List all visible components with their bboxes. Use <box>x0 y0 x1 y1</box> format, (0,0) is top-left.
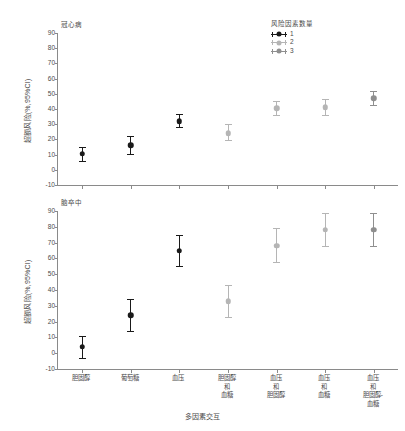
data-point-marker <box>128 143 134 149</box>
legend-label: 3 <box>290 48 294 55</box>
error-bar-cap-upper <box>127 136 134 137</box>
y-tick-mark <box>55 211 58 212</box>
error-bar-cap-lower <box>225 140 232 141</box>
error-bar-cap-upper <box>225 124 232 125</box>
legend-marker-icon <box>271 39 287 46</box>
legend-entries: 123 <box>271 31 313 55</box>
legend-item[interactable]: 2 <box>271 39 313 46</box>
error-bar-cap-lower <box>127 154 134 155</box>
x-category-label: 血压和胆固醇-血糖 <box>363 374 383 408</box>
y-tick-mark <box>55 124 58 125</box>
x-tick-mark <box>179 369 180 373</box>
data-point-marker <box>225 298 231 304</box>
data-point-marker <box>371 96 377 102</box>
figure-root: 冠心病 超额风险(%,95%CI) 9080706050403020100-10… <box>0 0 405 431</box>
y-tick-mark <box>55 227 58 228</box>
error-bar-cap-lower <box>273 115 280 116</box>
panel-title-stroke: 脑卒中 <box>61 200 82 207</box>
plot-area-stroke: 9080706050403020100-10 <box>57 211 398 370</box>
data-point-marker <box>274 105 280 111</box>
error-bar-cap-upper <box>79 147 86 148</box>
x-axis-title: 多因素交互 <box>0 411 405 421</box>
panel-title-chd: 冠心病 <box>61 22 82 29</box>
error-bar-cap-upper <box>225 285 232 286</box>
x-tick-mark <box>228 369 229 373</box>
error-bar-cap-upper <box>273 101 280 102</box>
x-category-label: 胆固醇 <box>72 374 90 383</box>
data-point-marker <box>80 151 86 157</box>
error-bar-point <box>130 211 131 369</box>
error-bar-cap-lower <box>176 127 183 128</box>
data-point-marker <box>177 118 183 124</box>
error-bar-point <box>82 211 83 369</box>
y-tick-mark <box>55 274 58 275</box>
x-category-label: 葡萄糖 <box>121 374 139 383</box>
y-tick-mark <box>55 185 58 186</box>
error-bar-cap-lower <box>79 161 86 162</box>
legend-label: 2 <box>290 39 294 46</box>
y-tick-mark <box>55 243 58 244</box>
y-tick-mark <box>55 369 58 370</box>
error-bar-cap-upper <box>127 299 134 300</box>
x-tick-mark <box>277 185 278 189</box>
y-tick-mark <box>55 353 58 354</box>
error-bar-cap-lower <box>273 262 280 263</box>
error-bar-cap-lower <box>322 115 329 116</box>
x-tick-mark <box>131 185 132 189</box>
error-bar-point <box>276 211 277 369</box>
error-bar-point <box>373 33 374 185</box>
data-point-marker <box>225 131 231 137</box>
x-tick-mark <box>179 185 180 189</box>
y-tick-mark <box>55 139 58 140</box>
y-axis-label-chd: 超额风险(%,95%CI) <box>22 79 32 143</box>
error-bar-cap-lower <box>370 105 377 106</box>
y-tick-mark <box>55 306 58 307</box>
legend-title: 风险因素数量 <box>271 21 313 28</box>
y-tick-mark <box>55 155 58 156</box>
data-point-marker <box>371 227 377 233</box>
data-point-marker <box>80 344 86 350</box>
error-bar-point <box>325 211 326 369</box>
error-bar-cap-upper <box>79 336 86 337</box>
y-tick-mark <box>55 258 58 259</box>
error-bar-cap-upper <box>176 235 183 236</box>
error-bar-point <box>130 33 131 185</box>
y-tick-mark <box>55 63 58 64</box>
legend-item[interactable]: 3 <box>271 48 313 55</box>
error-bar-point <box>179 211 180 369</box>
error-bar-point <box>228 33 229 185</box>
error-bar-cap-lower <box>79 358 86 359</box>
x-tick-mark <box>228 185 229 189</box>
error-bar-cap-upper <box>273 228 280 229</box>
error-bar-cap-lower <box>225 317 232 318</box>
legend: 风险因素数量 123 <box>271 21 313 56</box>
error-bar-point <box>82 33 83 185</box>
legend-item[interactable]: 1 <box>271 31 313 38</box>
data-point-marker <box>322 227 328 233</box>
data-point-marker <box>128 313 134 319</box>
error-bar-cap-upper <box>322 99 329 100</box>
x-tick-mark <box>325 185 326 189</box>
x-category-label: 血压 <box>172 374 184 383</box>
error-bar-point <box>373 211 374 369</box>
x-tick-mark <box>374 369 375 373</box>
error-bar-cap-upper <box>176 114 183 115</box>
legend-marker-icon <box>271 48 287 55</box>
x-tick-mark <box>82 185 83 189</box>
y-tick-mark <box>55 33 58 34</box>
error-bar-cap-lower <box>370 246 377 247</box>
data-point-marker <box>322 105 328 111</box>
data-point-marker <box>274 243 280 249</box>
y-tick-mark <box>55 94 58 95</box>
x-category-label: 血压和胆固醇 <box>267 374 285 400</box>
error-bar-cap-lower <box>322 246 329 247</box>
y-tick-mark <box>55 290 58 291</box>
y-tick-mark <box>55 48 58 49</box>
y-tick-mark <box>55 109 58 110</box>
error-bar-cap-lower <box>127 331 134 332</box>
x-category-label: 胆固醇和血糖 <box>218 374 236 400</box>
y-tick-mark <box>55 337 58 338</box>
y-tick-mark <box>55 79 58 80</box>
x-tick-mark <box>325 369 326 373</box>
error-bar-point <box>179 33 180 185</box>
